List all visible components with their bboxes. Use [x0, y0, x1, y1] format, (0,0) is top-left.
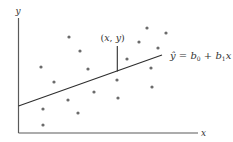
- point-label: (x, y): [101, 32, 125, 43]
- data-point: [41, 107, 44, 110]
- data-point: [116, 96, 119, 99]
- regression-equation: ŷ = b0 + b1x: [169, 50, 232, 62]
- data-point: [149, 66, 152, 69]
- data-point: [125, 57, 128, 60]
- data-point: [92, 90, 95, 93]
- regression-diagram: y x (x, y) ŷ = b0 + b1x: [0, 0, 233, 142]
- data-point: [137, 40, 140, 43]
- data-point: [41, 123, 44, 126]
- data-point: [115, 78, 118, 81]
- data-point: [86, 67, 89, 70]
- data-point: [76, 111, 79, 114]
- data-point: [66, 98, 69, 101]
- data-point: [78, 49, 81, 52]
- data-point: [156, 46, 159, 49]
- data-point: [150, 85, 153, 88]
- regression-line: [19, 55, 163, 106]
- data-point: [52, 80, 55, 83]
- data-point: [67, 35, 70, 38]
- x-axis-label: x: [201, 128, 206, 138]
- y-axis-label: y: [15, 6, 22, 16]
- data-point: [39, 65, 42, 68]
- data-point: [145, 26, 148, 29]
- data-point: [164, 31, 167, 34]
